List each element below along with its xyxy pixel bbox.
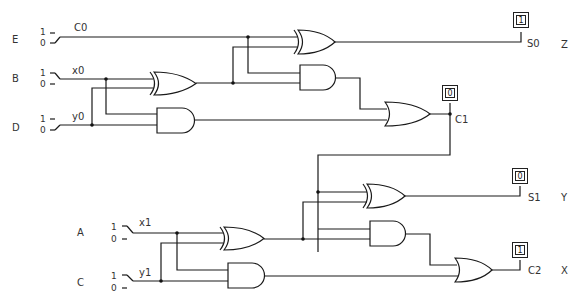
xor-gate-x1-y1 [220,227,264,250]
switch-C-hi: 1 [111,271,117,281]
signal-label-C1: C1 [455,115,468,125]
switch-A[interactable] [122,226,133,239]
indicator-value-S1: 0 [515,171,525,181]
signal-label-x1: x1 [139,218,151,228]
signal-label-C0: C0 [74,23,87,33]
output-label-Z: Z [561,40,568,50]
signal-label-x0: x0 [72,66,84,76]
indicator-value-C1: 0 [445,88,455,98]
input-label-C: C [77,278,84,288]
indicator-value-S0: 1 [516,15,526,25]
input-label-E: E [12,35,18,45]
switch-A-hi: 1 [111,222,117,232]
signal-label-S1: S1 [528,193,541,203]
and-gate-carry1 [370,221,405,246]
output-label-Y: Y [561,193,567,203]
switch-B-lo: 0 [40,79,46,89]
input-label-D: D [12,123,20,133]
switch-A-lo: 0 [111,234,117,244]
and-gate-x1-y1 [228,263,265,288]
switch-E[interactable] [50,33,60,43]
output-label-X: X [561,266,568,276]
output-indicator-C1: 0 [442,85,458,101]
or-gate-c1 [385,102,430,126]
input-label-A: A [77,228,84,238]
switch-D[interactable] [50,119,60,130]
signal-label-y1: y1 [139,268,151,278]
switch-D-lo: 0 [40,125,46,135]
switch-B-hi: 1 [40,68,46,78]
signal-label-S0: S0 [527,39,540,49]
adder-circuit-diagram: E 1 0 C0 B 1 0 x0 D 1 0 y0 A 1 0 x1 C 1 … [0,0,581,303]
or-gate-c2 [455,258,492,282]
and-gate-carry0 [300,65,336,90]
xor-gate-x0-y0 [150,72,196,95]
circuit-wires [0,0,581,303]
switch-D-hi: 1 [40,114,46,124]
switch-B[interactable] [50,73,60,84]
switch-C[interactable] [122,275,133,288]
switch-E-hi: 1 [40,27,46,37]
output-indicator-C2: 1 [512,242,528,258]
signal-label-C2: C2 [528,266,541,276]
input-label-B: B [12,74,19,84]
xor-gate-s1 [363,184,405,208]
switch-E-lo: 0 [40,38,46,48]
and-gate-x0-y0 [157,108,195,133]
signal-label-y0: y0 [72,112,84,122]
output-indicator-S1: 0 [512,168,528,184]
switch-C-lo: 0 [111,283,117,293]
output-indicator-S0: 1 [513,12,529,28]
xor-gate-s0 [294,30,335,54]
indicator-value-C2: 1 [515,245,525,255]
